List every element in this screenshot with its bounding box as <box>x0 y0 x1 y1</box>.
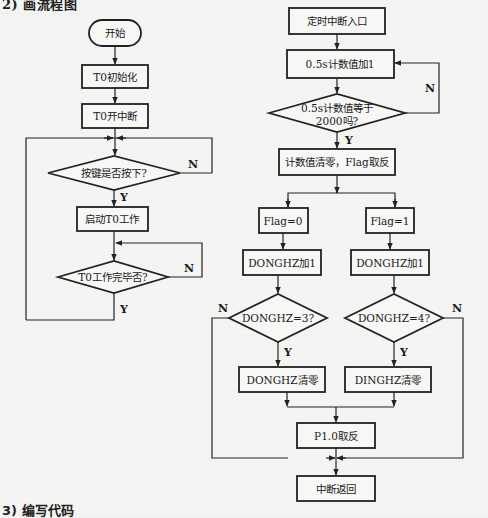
p10-toggle-label: P1.0取反 <box>314 430 358 442</box>
t0-done-label: T0工作完毕否? <box>78 271 148 283</box>
split-line <box>288 193 395 207</box>
donghz-inc-left-box: DONGHZ加1 <box>243 250 321 275</box>
flag0-box: Flag=0 <box>259 208 308 233</box>
main-flowchart: 开始 T0初始化 T0开中断 按键是否按下? N Y 启动T0工作 <box>26 20 212 320</box>
t0-enable-interrupt-box: T0开中断 <box>82 104 148 128</box>
donghz-clear-label: DONGHZ清零 <box>246 374 318 386</box>
donghz-inc-left-label: DONGHZ加1 <box>248 257 316 269</box>
donghz-eq3-label: DONGHZ=3? <box>242 312 315 324</box>
interrupt-entry-box: 定时中断入口 <box>289 8 385 34</box>
t0-enable-label: T0开中断 <box>93 110 138 122</box>
done-decision-no-label: N <box>184 262 194 275</box>
start-label: 开始 <box>105 27 126 39</box>
eq3-no-label: N <box>218 302 228 315</box>
clear-toggle-box: 计数值清零，Flag取反 <box>279 149 395 175</box>
clear-toggle-label: 计数值清零，Flag取反 <box>285 156 389 168</box>
start-t0-box: 启动T0工作 <box>77 207 148 231</box>
interrupt-flowchart: 定时中断入口 0.5s计数值加1 0.5s计数值等于 2000吗? N Y 计数… <box>212 8 463 501</box>
t0-done-decision: T0工作完毕否? <box>58 261 168 293</box>
key-decision-no-label: N <box>188 158 198 171</box>
key-pressed-label: 按键是否按下? <box>81 167 147 179</box>
interrupt-return-label: 中断返回 <box>316 483 356 495</box>
donghz-clear-box: DONGHZ清零 <box>239 367 325 392</box>
counter-inc-box: 0.5s计数值加1 <box>287 50 394 78</box>
p10-toggle-box: P1.0取反 <box>297 423 375 448</box>
donghz-eq3-decision: DONGHZ=3? <box>229 294 327 342</box>
flowchart-diagram: 开始 T0初始化 T0开中断 按键是否按下? N Y 启动T0工作 <box>0 0 488 518</box>
key-decision-yes-label: Y <box>119 191 128 204</box>
t0-init-label: T0初始化 <box>93 71 138 83</box>
counter-decision-no-label: N <box>425 82 435 95</box>
start-t0-label: 启动T0工作 <box>85 213 140 225</box>
eq4-no-label: N <box>452 302 462 315</box>
done-yes-return-line <box>26 293 114 320</box>
donghz-inc-right-label: DONGHZ加1 <box>356 257 424 269</box>
counter-decision-line1: 0.5s计数值等于 <box>301 102 373 114</box>
interrupt-return-box: 中断返回 <box>297 476 375 501</box>
counter-inc-label: 0.5s计数值加1 <box>306 58 375 70</box>
donghz-eq4-label: DONGHZ=4? <box>358 312 431 324</box>
dinghz-clear-label: DINGHZ清零 <box>355 374 423 386</box>
counter-decision-line2: 2000吗? <box>316 115 359 127</box>
dinghz-clear-box: DINGHZ清零 <box>345 367 431 392</box>
section-heading-code: 3) 编写代码 <box>2 500 74 518</box>
flag0-label: Flag=0 <box>263 215 302 227</box>
t0-init-box: T0初始化 <box>82 65 148 88</box>
donghz-inc-right-box: DONGHZ加1 <box>351 250 429 275</box>
flag1-box: Flag=1 <box>366 208 414 233</box>
eq4-yes-label: Y <box>399 346 408 359</box>
interrupt-entry-label: 定时中断入口 <box>307 15 367 27</box>
flag1-label: Flag=1 <box>370 215 409 227</box>
key-pressed-decision: 按键是否按下? <box>48 156 180 190</box>
counter-decision-yes-label: Y <box>344 134 353 147</box>
counter-decision: 0.5s计数值等于 2000吗? <box>269 94 405 132</box>
eq3-yes-label: Y <box>283 346 292 359</box>
done-decision-yes-label: Y <box>119 303 128 316</box>
donghz-eq4-decision: DONGHZ=4? <box>345 294 443 342</box>
start-terminal: 开始 <box>89 20 141 46</box>
